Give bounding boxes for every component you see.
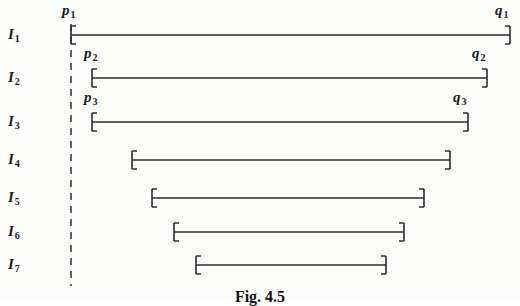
endpoint-label-p2: p2 xyxy=(84,45,97,62)
endpoint-label-q1: q1 xyxy=(495,2,508,19)
interval-segment-i3 xyxy=(92,113,468,131)
endpoint-label-q2: q2 xyxy=(472,45,485,62)
row-label-subscript: 1 xyxy=(15,33,20,44)
row-label-base: I xyxy=(8,26,14,42)
row-label-subscript: 4 xyxy=(15,158,20,169)
endpoint-label-q3: q3 xyxy=(453,89,466,106)
row-label-subscript: 3 xyxy=(15,120,20,131)
row-label-subscript: 7 xyxy=(15,263,20,274)
row-label-i6: I6 xyxy=(8,223,19,240)
endpoint-label-base: p xyxy=(62,2,70,18)
row-label-i4: I4 xyxy=(8,151,19,168)
interval-segment-i1 xyxy=(71,26,510,44)
interval-segment-i2 xyxy=(92,69,487,87)
row-label-subscript: 5 xyxy=(15,196,20,207)
row-label-base: I xyxy=(8,256,14,272)
endpoint-label-subscript: 1 xyxy=(71,9,76,20)
figure-caption: Fig. 4.5 xyxy=(0,288,520,306)
row-label-i7: I7 xyxy=(8,256,19,273)
row-label-base: I xyxy=(8,113,14,129)
endpoint-label-subscript: 3 xyxy=(93,96,98,107)
endpoint-label-base: q xyxy=(472,45,480,61)
row-label-subscript: 6 xyxy=(15,230,20,241)
row-label-subscript: 2 xyxy=(15,76,20,87)
row-label-i3: I3 xyxy=(8,113,19,130)
row-label-i5: I5 xyxy=(8,189,19,206)
row-label-base: I xyxy=(8,151,14,167)
endpoint-label-base: q xyxy=(453,89,461,105)
endpoint-label-subscript: 1 xyxy=(504,9,509,20)
interval-segment-i5 xyxy=(152,189,424,207)
endpoint-label-p3: p3 xyxy=(84,89,97,106)
endpoint-label-subscript: 3 xyxy=(462,96,467,107)
endpoint-label-subscript: 2 xyxy=(93,52,98,63)
endpoint-label-base: p xyxy=(84,89,92,105)
interval-segment-i7 xyxy=(196,256,386,274)
row-label-base: I xyxy=(8,69,14,85)
row-label-i2: I2 xyxy=(8,69,19,86)
interval-segment-i4 xyxy=(132,151,450,169)
row-label-base: I xyxy=(8,223,14,239)
endpoint-label-subscript: 2 xyxy=(481,52,486,63)
row-label-base: I xyxy=(8,189,14,205)
row-label-i1: I1 xyxy=(8,26,19,43)
endpoint-label-p1: p1 xyxy=(62,2,75,19)
interval-segment-i6 xyxy=(174,223,404,241)
endpoint-label-base: q xyxy=(495,2,503,18)
endpoint-label-base: p xyxy=(84,45,92,61)
